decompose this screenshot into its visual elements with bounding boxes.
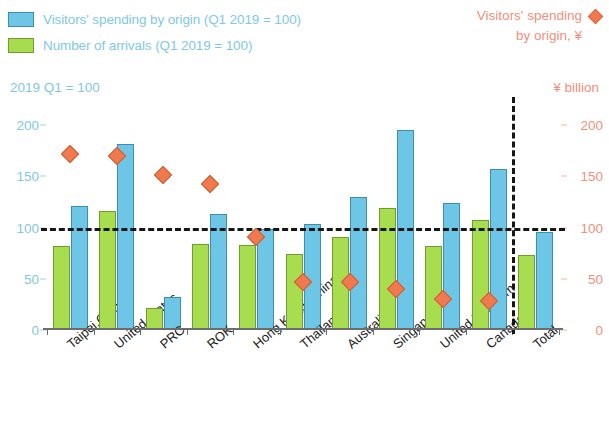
x-axis-tick-mark xyxy=(326,330,327,335)
y-axis-tick-label: 0 xyxy=(31,323,39,338)
x-axis-tick-mark xyxy=(466,330,467,335)
bar-arrivals xyxy=(146,308,163,330)
legend-label-spending: Visitors' spending by origin (Q1 2019 = … xyxy=(43,12,301,27)
bar-arrivals xyxy=(379,208,396,330)
diamond-marker-spending-yen xyxy=(201,175,219,193)
reference-line-100 xyxy=(41,228,565,231)
blue-square-swatch xyxy=(8,12,34,27)
y2-axis-tick-label: 150 xyxy=(569,169,603,184)
right-axis-unit-caption: ¥ billion xyxy=(553,80,599,95)
green-square-swatch xyxy=(8,38,34,53)
y2-axis-tick-label: 100 xyxy=(569,220,603,235)
y-axis-tick-label: 200 xyxy=(16,118,39,133)
bar-spending xyxy=(443,203,460,330)
legend-item-arrivals: Number of arrivals (Q1 2019 = 100) xyxy=(8,32,301,58)
bar-spending xyxy=(350,197,367,330)
x-axis-tick-mark xyxy=(47,330,48,335)
x-axis-tick-mark xyxy=(187,330,188,335)
bar-spending xyxy=(536,232,553,330)
y2-axis-tick-label: 0 xyxy=(569,323,603,338)
bar-arrivals xyxy=(472,220,489,330)
legend-item-spending-yen-line2: by origin, ¥ xyxy=(477,26,601,46)
x-axis-line xyxy=(43,328,563,330)
x-axis-tick-mark xyxy=(233,330,234,335)
bar-arrivals xyxy=(425,246,442,330)
legend-label-spending-yen-line1: Visitors' spending xyxy=(477,6,582,26)
y-axis-tick-label: 100 xyxy=(16,220,39,235)
bar-spending xyxy=(257,229,274,330)
diamond-marker-spending-yen xyxy=(61,144,79,162)
x-axis-tick-mark xyxy=(280,330,281,335)
legend-label-arrivals: Number of arrivals (Q1 2019 = 100) xyxy=(43,38,252,53)
y2-axis-tick-label: 200 xyxy=(569,118,603,133)
legend-item-spending-yen: Visitors' spending xyxy=(477,6,601,26)
y2-axis-tick-label: 50 xyxy=(569,271,603,286)
bar-arrivals xyxy=(518,255,535,330)
legend-item-spending: Visitors' spending by origin (Q1 2019 = … xyxy=(8,6,301,32)
chart-figure: Visitors' spending by origin (Q1 2019 = … xyxy=(0,0,609,442)
diamond-marker-spending-yen xyxy=(154,166,172,184)
legend-right: Visitors' spending by origin, ¥ xyxy=(477,6,601,46)
x-axis-tick-mark xyxy=(419,330,420,335)
y2-axis-tick-mark xyxy=(561,125,567,126)
y-axis-tick-mark xyxy=(40,176,46,177)
total-divider-line xyxy=(512,97,515,334)
bar-arrivals xyxy=(286,254,303,330)
y-axis-tick-label: 50 xyxy=(24,271,39,286)
bar-spending xyxy=(210,214,227,330)
bar-spending xyxy=(71,206,88,330)
x-axis-tick-mark xyxy=(94,330,95,335)
y-axis-tick-mark xyxy=(40,278,46,279)
bar-arrivals xyxy=(239,245,256,330)
y-axis-tick-mark xyxy=(40,125,46,126)
plot-area: 050100150200050100150200Taipei,ChinaUnit… xyxy=(47,125,559,330)
x-axis-tick-mark xyxy=(373,330,374,335)
x-axis-tick-mark xyxy=(140,330,141,335)
bar-spending xyxy=(117,144,134,330)
legend-left: Visitors' spending by origin (Q1 2019 = … xyxy=(8,6,301,58)
y2-axis-tick-mark xyxy=(561,278,567,279)
left-axis-unit-caption: 2019 Q1 = 100 xyxy=(10,80,100,95)
bar-arrivals xyxy=(192,244,209,330)
legend-label-spending-yen-line2: by origin, ¥ xyxy=(516,26,582,46)
y-axis-tick-label: 150 xyxy=(16,169,39,184)
bar-arrivals xyxy=(53,246,70,330)
y2-axis-tick-mark xyxy=(561,176,567,177)
orange-diamond-marker-icon xyxy=(588,8,604,24)
x-axis-tick-mark xyxy=(559,330,560,335)
